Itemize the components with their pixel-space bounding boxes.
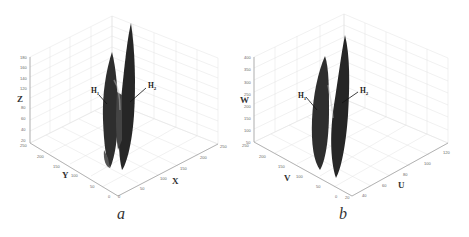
svg-text:300: 300 bbox=[244, 80, 251, 85]
svg-text:160: 160 bbox=[20, 65, 27, 70]
z-axis-label-a: Z bbox=[17, 94, 23, 104]
svg-text:40: 40 bbox=[362, 193, 367, 198]
svg-text:H1: H1 bbox=[91, 86, 100, 96]
svg-text:100: 100 bbox=[296, 174, 303, 179]
svg-text:60: 60 bbox=[21, 116, 26, 121]
svg-text:0: 0 bbox=[335, 194, 338, 199]
x-ticks-b: 20 40 60 80 100 120 bbox=[345, 150, 450, 200]
x-ticks-a: 0 50 100 150 200 250 bbox=[118, 144, 227, 199]
svg-text:200: 200 bbox=[37, 154, 44, 159]
scatter3d-b: 400 350 300 250 200 150 100 50 W 250 200… bbox=[234, 0, 469, 237]
panel-a: 180 160 140 120 80 60 40 20 Z 250 200 15… bbox=[0, 0, 235, 237]
svg-text:100: 100 bbox=[160, 176, 167, 181]
svg-text:80: 80 bbox=[403, 172, 408, 177]
svg-text:150: 150 bbox=[244, 116, 251, 121]
svg-text:H2: H2 bbox=[360, 86, 369, 96]
svg-text:200: 200 bbox=[259, 154, 266, 159]
caption-a: a bbox=[117, 205, 125, 223]
svg-text:150: 150 bbox=[180, 166, 187, 171]
svg-text:120: 120 bbox=[20, 86, 27, 91]
svg-text:50: 50 bbox=[316, 184, 321, 189]
cluster-h2-a bbox=[114, 23, 135, 170]
cluster-h1-b bbox=[312, 56, 329, 170]
svg-text:250: 250 bbox=[242, 143, 249, 148]
svg-text:120: 120 bbox=[443, 150, 450, 155]
caption-b: b bbox=[339, 205, 347, 223]
svg-text:100: 100 bbox=[71, 173, 78, 178]
panel-b: 400 350 300 250 200 150 100 50 W 250 200… bbox=[234, 0, 469, 237]
svg-text:350: 350 bbox=[244, 67, 251, 72]
x-axis-label-a: X bbox=[172, 176, 179, 186]
svg-text:180: 180 bbox=[20, 55, 27, 60]
svg-text:80: 80 bbox=[21, 105, 26, 110]
svg-text:150: 150 bbox=[278, 164, 285, 169]
y-axis-label-a: Y bbox=[62, 170, 69, 180]
svg-text:140: 140 bbox=[20, 76, 27, 81]
svg-text:20: 20 bbox=[345, 195, 350, 200]
svg-text:50: 50 bbox=[140, 186, 145, 191]
svg-text:0: 0 bbox=[108, 194, 111, 199]
x-axis-label-b: U bbox=[398, 180, 405, 190]
svg-text:100: 100 bbox=[244, 128, 251, 133]
scatter3d-a: 180 160 140 120 80 60 40 20 Z 250 200 15… bbox=[0, 0, 235, 237]
svg-text:H1: H1 bbox=[298, 91, 307, 101]
cluster-h2-b bbox=[328, 35, 349, 178]
svg-text:400: 400 bbox=[244, 55, 251, 60]
svg-text:40: 40 bbox=[21, 127, 26, 132]
svg-text:150: 150 bbox=[53, 164, 60, 169]
svg-text:100: 100 bbox=[424, 161, 431, 166]
svg-text:H2: H2 bbox=[148, 81, 157, 91]
svg-text:50: 50 bbox=[90, 184, 95, 189]
z-axis-label-b: W bbox=[240, 95, 249, 105]
svg-text:250: 250 bbox=[220, 144, 227, 149]
y-axis-label-b: V bbox=[284, 173, 291, 183]
svg-text:60: 60 bbox=[382, 183, 387, 188]
svg-text:250: 250 bbox=[20, 143, 27, 148]
svg-text:200: 200 bbox=[200, 155, 207, 160]
